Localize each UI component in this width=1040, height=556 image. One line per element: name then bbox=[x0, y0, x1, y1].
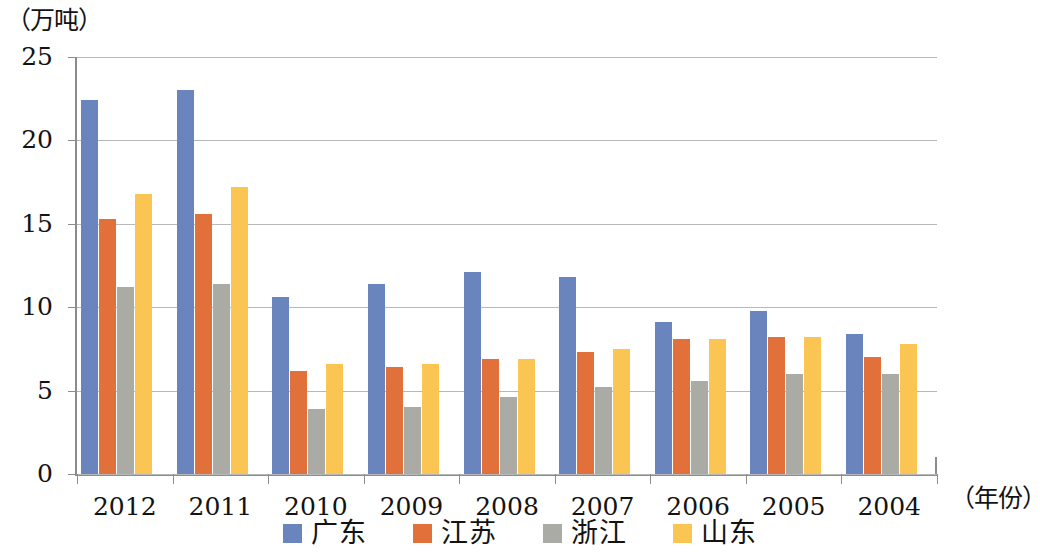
bar bbox=[368, 284, 385, 474]
legend-swatch-icon bbox=[673, 524, 692, 543]
bar bbox=[882, 374, 899, 474]
bar bbox=[786, 374, 803, 474]
y-axis-line bbox=[75, 57, 77, 476]
bar bbox=[231, 187, 248, 474]
legend-item[interactable]: 江苏 bbox=[413, 518, 497, 548]
legend-item[interactable]: 山东 bbox=[673, 518, 757, 548]
bar bbox=[613, 349, 630, 474]
bar bbox=[900, 344, 917, 474]
bar bbox=[290, 371, 307, 474]
bar bbox=[326, 364, 343, 474]
bar bbox=[464, 272, 481, 474]
gridline bbox=[77, 474, 937, 475]
legend-label: 江苏 bbox=[441, 518, 497, 548]
y-axis-unit-label: （万吨） bbox=[6, 6, 102, 36]
legend-label: 广东 bbox=[311, 518, 367, 548]
bar bbox=[846, 334, 863, 474]
y-axis-tick-mark bbox=[68, 140, 77, 141]
bar bbox=[117, 287, 134, 474]
x-axis-tick-mark bbox=[77, 474, 78, 484]
chart-legend: 广东江苏浙江山东 bbox=[0, 518, 1040, 548]
bar-chart: （万吨） （年份） 051015202520122011201020092008… bbox=[0, 0, 1040, 556]
bar bbox=[482, 359, 499, 474]
y-axis-tick-mark bbox=[68, 224, 77, 225]
x-axis-tick-mark bbox=[268, 474, 269, 484]
x-axis-tick-mark bbox=[173, 474, 174, 484]
bar bbox=[81, 100, 98, 474]
bar bbox=[750, 311, 767, 474]
y-axis-tick-mark bbox=[68, 307, 77, 308]
bar bbox=[577, 352, 594, 474]
y-axis-tick-mark bbox=[68, 391, 77, 392]
bar bbox=[559, 277, 576, 474]
bar bbox=[691, 381, 708, 474]
bar bbox=[709, 339, 726, 474]
plot-area: 0510152025201220112010200920082007200620… bbox=[77, 57, 937, 474]
bar bbox=[213, 284, 230, 474]
x-axis-tick-mark bbox=[555, 474, 556, 484]
legend-item[interactable]: 浙江 bbox=[543, 518, 627, 548]
bar bbox=[422, 364, 439, 474]
x-axis-tick-mark bbox=[650, 474, 651, 484]
x-axis-tick-mark bbox=[841, 474, 842, 484]
bar bbox=[99, 219, 116, 474]
y-axis-tick-label: 25 bbox=[7, 44, 53, 69]
y-axis-tick-label: 0 bbox=[7, 461, 53, 486]
x-axis-tick-mark bbox=[746, 474, 747, 484]
y-axis-tick-label: 15 bbox=[7, 211, 53, 236]
x-axis-tick-mark bbox=[937, 474, 938, 484]
bar bbox=[272, 297, 289, 474]
legend-label: 山东 bbox=[701, 518, 757, 548]
legend-label: 浙江 bbox=[571, 518, 627, 548]
bar bbox=[135, 194, 152, 474]
x-axis-tick-mark bbox=[459, 474, 460, 484]
bar bbox=[500, 397, 517, 474]
gridline bbox=[77, 140, 937, 141]
bar bbox=[768, 337, 785, 474]
y-axis-tick-mark bbox=[68, 57, 77, 58]
legend-item[interactable]: 广东 bbox=[283, 518, 367, 548]
x-axis-tick-label: 2004 bbox=[829, 493, 949, 521]
bar bbox=[518, 359, 535, 474]
x-axis-unit-label: （年份） bbox=[950, 484, 1040, 514]
bar bbox=[386, 367, 403, 474]
bar bbox=[308, 409, 325, 474]
y-axis-tick-label: 5 bbox=[7, 378, 53, 403]
bar bbox=[404, 407, 421, 474]
bar bbox=[595, 387, 612, 474]
legend-swatch-icon bbox=[413, 524, 432, 543]
legend-swatch-icon bbox=[283, 524, 302, 543]
y-axis-tick-mark bbox=[68, 474, 77, 475]
bar bbox=[864, 357, 881, 474]
bar bbox=[673, 339, 690, 474]
bar bbox=[177, 90, 194, 474]
bar bbox=[804, 337, 821, 474]
bar bbox=[655, 322, 672, 474]
gridline bbox=[77, 57, 937, 58]
legend-swatch-icon bbox=[543, 524, 562, 543]
bar bbox=[195, 214, 212, 474]
y-axis-tick-label: 10 bbox=[7, 294, 53, 319]
y-axis-tick-label: 20 bbox=[7, 127, 53, 152]
x-axis-tick-mark bbox=[364, 474, 365, 484]
